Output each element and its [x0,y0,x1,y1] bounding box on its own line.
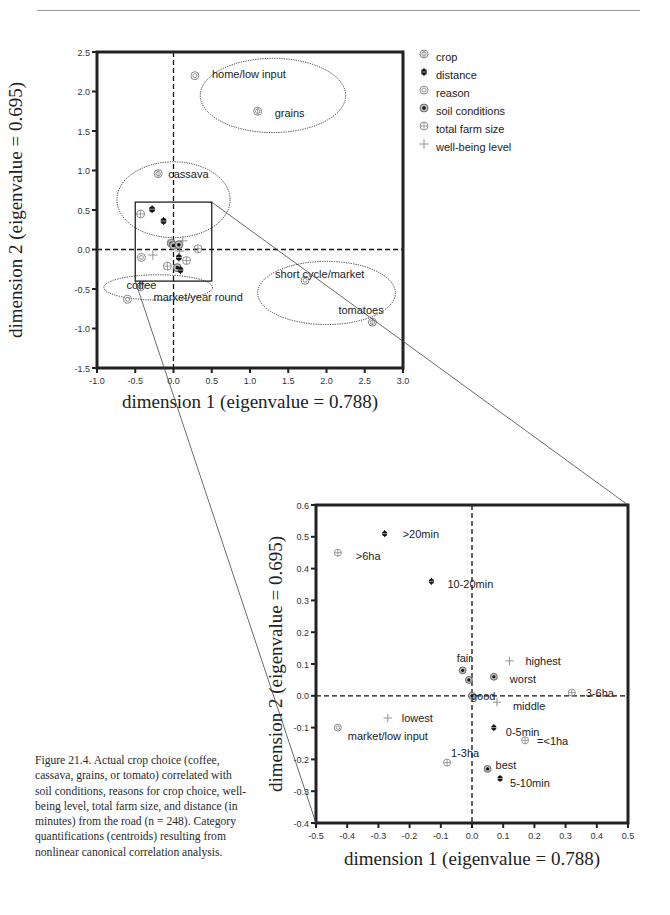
legend-label: distance [436,69,477,81]
point-label: 0-5min [506,726,540,738]
distance-marker-icon [148,205,156,213]
point-label: 10-20min [447,578,493,590]
point-label: market/year round [154,291,243,303]
wellbeing-marker-icon [419,139,429,149]
point-label: coffee [127,279,157,291]
wellbeing-marker-icon [148,250,158,260]
farm-marker-icon [194,245,202,253]
point-label: short cycle/market [275,268,364,280]
reason-marker-icon [137,253,145,261]
legend-item-crop: crop [420,50,457,63]
overview-scatter-plot: home/low inputgrainscassavacoffeemarket/… [5,48,409,414]
point-label: worst [509,673,536,685]
soil-marker-icon [175,241,183,249]
crop-marker-icon [254,107,262,115]
reason-marker-icon [124,295,132,303]
y-tick-label: 0.2 [296,628,309,638]
point-label: good [471,690,495,702]
point-label: 1-3ha [451,747,480,759]
crop-marker-icon [154,170,162,178]
soil-marker-icon [484,765,491,772]
distance-marker-icon [420,68,428,76]
y-tick-label: 1.0 [77,166,90,176]
zoomed-scatter-plot: >20min>6ha10-20minfairworsthighestgood3-… [265,501,634,871]
legend-label: total farm size [436,123,504,135]
plot-frame [97,52,403,368]
legend-label: well-being level [435,141,511,153]
crop-marker-icon [420,50,428,58]
soil-marker-icon [420,104,428,112]
y-tick-label: 0.5 [296,532,309,542]
point-label: best [496,759,517,771]
point-label: cassava [168,168,209,180]
y-tick-label: 1.5 [77,127,90,137]
y-axis-label: dimension 2 (eigenvalue = 0.695) [5,82,27,338]
point-label: lowest [402,712,433,724]
y-tick-label: 0.1 [296,660,309,670]
x-tick-label: -0.5 [127,376,143,386]
y-tick-label: -1.0 [74,324,90,334]
distance-marker-icon [175,253,183,261]
farm-marker-icon [183,257,191,265]
farm-marker-icon [522,737,529,744]
point-label: highest [525,655,560,667]
x-tick-label: -1.0 [89,376,105,386]
point-label: tomatoes [338,304,384,316]
caption-text: Actual crop choice (coffee, cassava, gra… [35,754,246,859]
point-label: =<1ha [537,735,569,747]
point-label: market/low input [348,730,428,742]
legend-item-wellbeing: well-being level [419,139,511,153]
distance-marker-icon [160,217,168,225]
y-tick-label: -1.5 [74,364,90,374]
x-tick-label: -0.3 [371,831,387,841]
figure-caption: Figure 21.4. Actual crop choice (coffee,… [35,753,250,860]
soil-marker-icon [465,676,472,683]
point-label: >6ha [356,550,382,562]
y-tick-label: -0.5 [74,285,90,295]
x-tick-label: 0.2 [528,831,541,841]
soil-marker-icon [490,673,497,680]
farm-marker-icon [568,689,575,696]
legend-item-reason: reason [420,86,470,99]
x-tick-label: 0.0 [167,376,180,386]
reason-marker-icon [420,86,428,94]
x-tick-label: 0.3 [559,831,572,841]
legend-label: soil conditions [436,105,506,117]
y-tick-label: -0.1 [293,723,309,733]
point-label: middle [513,700,545,712]
x-tick-label: -0.4 [339,831,355,841]
x-tick-label: 3.0 [397,376,410,386]
y-tick-label: -0.4 [293,819,309,829]
y-tick-label: 2.0 [77,87,90,97]
distance-marker-icon [381,530,388,537]
y-tick-label: 0.3 [296,596,309,606]
y-axis-label: dimension 2 (eigenvalue = 0.695) [265,536,287,792]
distance-marker-icon [490,724,497,731]
legend-label: reason [436,87,470,99]
x-tick-label: 1.0 [244,376,257,386]
legend: cropdistancereasonsoil conditionstotal f… [419,50,511,153]
legend-item-distance: distance [420,68,477,81]
x-tick-label: -0.5 [308,831,324,841]
farm-marker-icon [420,122,428,130]
point-label: grains [275,107,305,119]
x-tick-label: 0.5 [622,831,635,841]
point-label: 5-10min [510,777,550,789]
x-tick-label: 0.0 [466,831,479,841]
x-tick-label: -0.1 [433,831,449,841]
figure-label: Figure 21.4. [35,754,91,767]
x-tick-label: 2.5 [358,376,371,386]
distance-marker-icon [428,578,435,585]
point-label: >20min [403,528,439,540]
x-tick-label: -0.2 [402,831,418,841]
wellbeing-marker-icon [505,657,513,665]
distance-marker-icon [497,775,504,782]
y-tick-label: 0.4 [296,564,309,574]
x-axis-label: dimension 1 (eigenvalue = 0.788) [344,848,600,870]
y-tick-label: 0.5 [77,206,90,216]
y-tick-label: 2.5 [77,48,90,58]
point-label: home/low input [212,68,286,80]
x-tick-label: 0.1 [497,831,510,841]
legend-item-farm: total farm size [420,122,504,135]
y-tick-label: 0.0 [77,245,90,255]
